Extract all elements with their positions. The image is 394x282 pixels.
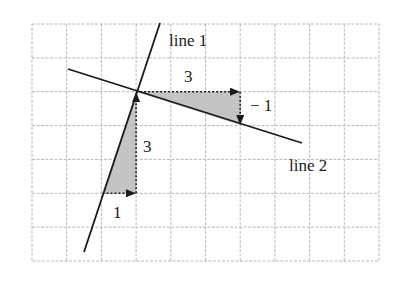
line2-run-value: 3 bbox=[184, 67, 193, 86]
slope-diagram: line 1 line 2 1 3 3 − 1 bbox=[0, 0, 394, 282]
line2-rise-value: − 1 bbox=[250, 96, 272, 115]
line2-slope-triangle bbox=[136, 92, 240, 125]
grid bbox=[32, 24, 379, 261]
line-2-label: line 2 bbox=[289, 156, 327, 175]
line-1-label: line 1 bbox=[169, 31, 207, 50]
line1-slope-triangle bbox=[103, 92, 137, 194]
line1-run-value: 1 bbox=[113, 203, 122, 222]
line1-rise-value: 3 bbox=[143, 137, 152, 156]
